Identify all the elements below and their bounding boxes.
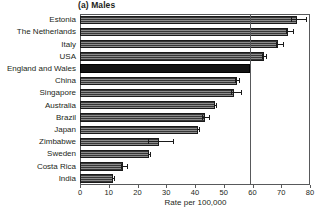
bar-row [80,100,310,112]
x-axis-tick-label: 30 [162,188,170,197]
bar-the-netherlands [80,28,288,36]
error-bar-cap [148,139,149,144]
chart-title: (a) Males [78,0,115,10]
x-axis-tick-label: 40 [191,188,199,197]
error-bar-cap [262,54,263,59]
error-bar-cap [231,90,232,95]
error-bar-cap [197,127,198,132]
error-bar [202,117,209,118]
bar-row [80,124,310,136]
error-bar-cap [239,78,240,83]
bar-row [80,26,310,38]
bar-england-and-wales [80,64,250,72]
bar-sweden [80,150,149,158]
y-axis-label: Singapore [0,88,76,97]
error-bar-cap [114,176,115,181]
bar-row [80,148,310,160]
y-axis-label: England and Wales [0,64,76,73]
x-axis-title: Rate per 100,000 [80,198,311,207]
bar-row [80,63,310,75]
x-axis-tick-label: 50 [220,188,228,197]
error-bar-cap [209,115,210,120]
x-axis-tick-label: 10 [105,188,113,197]
bar-row [80,75,310,87]
bar-row [80,38,310,50]
plot-area [80,14,310,185]
bar-brazil [80,113,205,121]
y-axis-label: USA [0,52,76,61]
bar-row [80,112,310,124]
x-axis-tick-label: 20 [133,188,141,197]
x-axis-tick-label: 70 [277,188,285,197]
bar-row [80,87,310,99]
x-axis-tick-label: 60 [248,188,256,197]
error-bar-cap [150,152,151,157]
error-bar-cap [173,139,174,144]
error-bar-cap [283,42,284,47]
bar-costa-rica [80,162,123,170]
y-axis-label: The Netherlands [0,27,76,36]
x-axis-tick-label: 80 [306,188,314,197]
y-axis-label: Costa Rica [0,162,76,171]
bar-row [80,14,310,26]
error-bar-cap [276,42,277,47]
error-bar-cap [286,29,287,34]
error-bar-cap [235,78,236,83]
y-axis-label: China [0,76,76,85]
reference-line [250,14,251,185]
error-bar-cap [121,164,122,169]
error-bar-cap [202,115,203,120]
error-bar [291,19,305,20]
x-axis-tick-label: 0 [78,188,82,197]
bar-china [80,77,237,85]
bar-row [80,136,310,148]
error-bar-cap [112,176,113,181]
chart-container: (a) Males EstoniaThe NetherlandsItalyUSA… [0,0,321,220]
error-bar [231,92,241,93]
error-bar-cap [199,127,200,132]
y-axis-label: Brazil [0,113,76,122]
error-bar-cap [306,17,307,22]
y-axis-label: Australia [0,101,76,110]
error-bar-cap [214,103,215,108]
bar-estonia [80,16,297,24]
y-axis-label: Estonia [0,15,76,24]
error-bar-cap [293,29,294,34]
error-bar-cap [127,164,128,169]
y-axis-label: India [0,174,76,183]
bar-india [80,174,113,182]
y-axis-label: Italy [0,40,76,49]
y-axis-label: Japan [0,125,76,134]
y-axis-label: Zimbabwe [0,137,76,146]
error-bar-cap [216,103,217,108]
error-bar-cap [148,152,149,157]
error-bar-cap [241,90,242,95]
bar-japan [80,126,198,134]
error-bar [148,141,174,142]
bar-row [80,51,310,63]
error-bar [286,31,293,32]
bar-australia [80,101,215,109]
y-axis-label: Sweden [0,149,76,158]
error-bar [276,44,283,45]
bar-row [80,161,310,173]
error-bar-cap [266,54,267,59]
bar-row [80,173,310,185]
y-axis-category-labels: EstoniaThe NetherlandsItalyUSAEngland an… [0,14,76,185]
error-bar-cap [291,17,292,22]
x-axis: 01020304050607080 [80,185,311,199]
bar-italy [80,40,278,48]
bar-usa [80,52,264,60]
bar-singapore [80,89,234,97]
